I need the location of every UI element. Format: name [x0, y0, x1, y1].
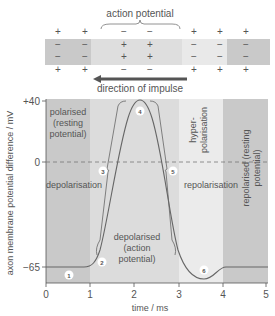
- charge-sign: −: [55, 39, 61, 50]
- marker-5: 5: [169, 167, 178, 176]
- charge-sign: +: [243, 26, 249, 37]
- charge-sign: +: [121, 51, 127, 62]
- charge-sign: −: [121, 64, 127, 75]
- charge-sign: +: [147, 39, 153, 50]
- marker-1: 1: [65, 271, 74, 280]
- charge-sign: +: [191, 64, 197, 75]
- x-ticks: [46, 283, 266, 287]
- polarised-label-1: polarised: [50, 107, 87, 117]
- charge-sign: −: [243, 39, 249, 50]
- marker-4: 4: [136, 107, 145, 116]
- charge-sign: +: [147, 51, 153, 62]
- action-potential-brace: [101, 20, 180, 29]
- depolarised-label-2: (action: [123, 243, 150, 253]
- x-label-4: 4: [220, 289, 226, 300]
- charge-sign: −: [55, 51, 61, 62]
- charge-sign: +: [191, 26, 197, 37]
- charge-sign: −: [243, 51, 249, 62]
- x-label-1: 1: [87, 289, 93, 300]
- charge-sign: +: [82, 64, 88, 75]
- charge-sign: +: [243, 64, 249, 75]
- charge-sign: −: [121, 26, 127, 37]
- charge-sign: −: [191, 51, 197, 62]
- charge-sign: +: [82, 26, 88, 37]
- charge-sign: −: [147, 64, 153, 75]
- x-label-2: 2: [131, 289, 137, 300]
- charge-signs: +−−++−−+−++−−++−+−−++−−++−−+: [55, 26, 249, 75]
- charge-sign: −: [147, 26, 153, 37]
- charge-sign: −: [217, 39, 223, 50]
- depolarisation-label: depolarisation: [46, 180, 102, 190]
- action-potential-diagram: action potential +−−++−−+−++−−++−+−−++−−…: [0, 0, 275, 316]
- charge-sign: +: [217, 26, 223, 37]
- marker-3: 3: [99, 167, 108, 176]
- x-label-3: 3: [176, 289, 182, 300]
- repolarised-label-1: repolarised (resting: [241, 129, 251, 206]
- direction-of-impulse-label: direction of impulse: [97, 83, 184, 94]
- y-label-zero: 0: [34, 157, 40, 168]
- axon-strip: action potential +−−++−−+−++−−++−+−−++−−…: [45, 8, 270, 94]
- repolarisation-label: repolarisation: [184, 180, 238, 190]
- repolarised-label-2: potential): [252, 149, 262, 186]
- direction-arrow-head-icon: [93, 75, 101, 83]
- y-label-pos40: +40: [23, 96, 40, 107]
- y-label-neg65: −65: [23, 262, 40, 273]
- membrane-potential-chart: +40 0 −65 0 1 2 3 4 5 time / ms axon mem…: [5, 96, 269, 313]
- charge-sign: −: [217, 51, 223, 62]
- action-potential-label: action potential: [106, 8, 173, 19]
- x-axis-title: time / ms: [132, 303, 169, 313]
- charge-sign: +: [55, 64, 61, 75]
- charge-sign: −: [191, 39, 197, 50]
- charge-sign: −: [82, 39, 88, 50]
- hyper-label-2: polarisation: [199, 107, 209, 153]
- charge-sign: +: [55, 26, 61, 37]
- depolarised-label-3: potential): [118, 254, 155, 264]
- marker-6: 6: [200, 266, 209, 275]
- marker-2: 2: [98, 258, 107, 267]
- charge-sign: −: [82, 51, 88, 62]
- x-label-5: 5: [263, 289, 269, 300]
- axon-segment-action: [91, 39, 182, 65]
- charge-sign: +: [121, 39, 127, 50]
- depolarised-label-1: depolarised: [114, 232, 161, 242]
- polarised-label-2: (resting: [53, 118, 83, 128]
- y-axis-title: axon membrane potential difference / mV: [5, 111, 15, 275]
- hyper-label-1: hyper-: [188, 117, 198, 143]
- charge-sign: +: [217, 64, 223, 75]
- polarised-label-3: potential): [49, 129, 86, 139]
- x-label-0: 0: [43, 289, 49, 300]
